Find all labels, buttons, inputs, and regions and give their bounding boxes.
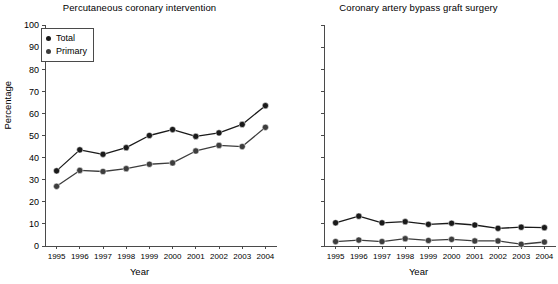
svg-text:1997: 1997 bbox=[373, 252, 391, 261]
svg-text:0: 0 bbox=[34, 241, 39, 251]
x-axis-label-left: Year bbox=[0, 266, 279, 277]
svg-text:2000: 2000 bbox=[443, 252, 461, 261]
svg-text:1999: 1999 bbox=[141, 252, 159, 261]
svg-text:80: 80 bbox=[29, 65, 39, 75]
legend-label: Primary bbox=[56, 45, 87, 58]
legend-left: TotalPrimary bbox=[41, 28, 94, 62]
svg-text:40: 40 bbox=[29, 153, 39, 163]
legend-item-primary: Primary bbox=[46, 45, 87, 58]
chart-panel-cabg: Coronary artery bypass graft surgery 199… bbox=[279, 0, 558, 284]
svg-text:1996: 1996 bbox=[350, 252, 368, 261]
legend-label: Total bbox=[56, 32, 75, 45]
svg-text:100: 100 bbox=[24, 20, 39, 30]
svg-text:90: 90 bbox=[29, 42, 39, 52]
figure-two-panel-line-charts: Percutaneous coronary intervention Perce… bbox=[0, 0, 558, 284]
svg-text:2002: 2002 bbox=[489, 252, 507, 261]
svg-text:1998: 1998 bbox=[396, 252, 414, 261]
svg-text:50: 50 bbox=[29, 131, 39, 141]
legend-marker-dot-icon bbox=[46, 49, 51, 54]
svg-text:1999: 1999 bbox=[420, 252, 438, 261]
svg-text:30: 30 bbox=[29, 175, 39, 185]
svg-text:2004: 2004 bbox=[257, 252, 275, 261]
svg-text:2000: 2000 bbox=[164, 252, 182, 261]
svg-text:10: 10 bbox=[29, 219, 39, 229]
svg-text:2004: 2004 bbox=[536, 252, 554, 261]
svg-text:2003: 2003 bbox=[512, 252, 530, 261]
svg-text:2001: 2001 bbox=[466, 252, 484, 261]
svg-text:2001: 2001 bbox=[187, 252, 205, 261]
chart-panel-pci: Percutaneous coronary intervention Perce… bbox=[0, 0, 279, 284]
svg-text:60: 60 bbox=[29, 109, 39, 119]
plot-area-right: 1995199619971998199920002001200220032004 bbox=[279, 0, 558, 284]
legend-marker-dot-icon bbox=[46, 36, 51, 41]
svg-text:2002: 2002 bbox=[210, 252, 228, 261]
svg-text:1997: 1997 bbox=[94, 252, 112, 261]
svg-text:1995: 1995 bbox=[48, 252, 66, 261]
svg-text:70: 70 bbox=[29, 87, 39, 97]
svg-text:1998: 1998 bbox=[117, 252, 135, 261]
svg-text:20: 20 bbox=[29, 197, 39, 207]
legend-item-total: Total bbox=[46, 32, 87, 45]
svg-text:1995: 1995 bbox=[327, 252, 345, 261]
svg-text:2003: 2003 bbox=[233, 252, 251, 261]
svg-text:1996: 1996 bbox=[71, 252, 89, 261]
x-axis-label-right: Year bbox=[279, 266, 558, 277]
